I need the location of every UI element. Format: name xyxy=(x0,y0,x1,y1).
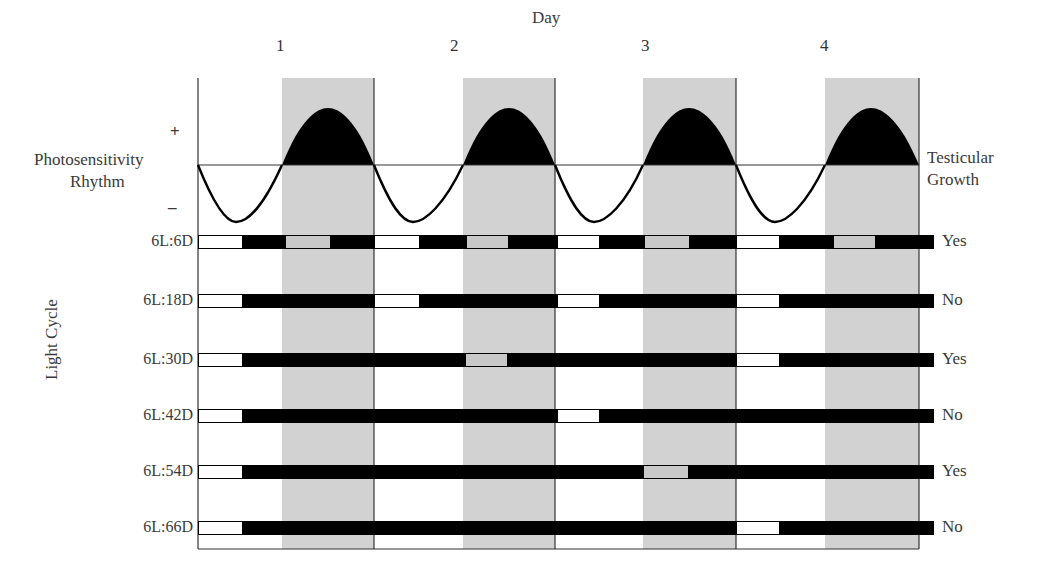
growth-result: No xyxy=(942,405,963,425)
bar-6L-66D xyxy=(198,521,934,535)
row-label: 6L:6D xyxy=(93,232,193,250)
growth-result: No xyxy=(942,290,963,310)
row-label: 6L:54D xyxy=(93,462,193,480)
bar-6L-6D xyxy=(198,235,934,249)
row-label: 6L:18D xyxy=(93,291,193,309)
growth-result: No xyxy=(942,517,963,537)
growth-result: Yes xyxy=(942,349,967,369)
row-label: 6L:42D xyxy=(93,406,193,424)
bar-6L-54D xyxy=(198,465,934,479)
bar-6L-42D xyxy=(198,409,934,423)
growth-result: Yes xyxy=(942,461,967,481)
bar-6L-30D xyxy=(198,353,934,367)
bar-6L-18D xyxy=(198,294,934,308)
positive-lobes xyxy=(282,108,919,165)
growth-result: Yes xyxy=(942,231,967,251)
row-label: 6L:30D xyxy=(93,350,193,368)
row-label: 6L:66D xyxy=(93,518,193,536)
